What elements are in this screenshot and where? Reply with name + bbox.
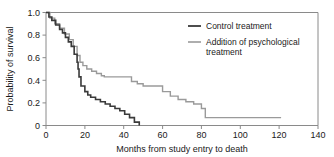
x-tick-label-100: 100 <box>233 130 248 140</box>
survival-chart-figure: 1.0 0.8 0.6 0.4 0.2 0 0 20 40 60 80 100 <box>0 0 334 157</box>
series-line-control-treatment <box>46 13 139 126</box>
y-tick-label-0.6: 0.6 <box>27 53 40 63</box>
x-tick-label-60: 60 <box>158 130 168 140</box>
kaplan-meier-plot: 1.0 0.8 0.6 0.4 0.2 0 0 20 40 60 80 100 <box>0 0 334 157</box>
y-tick-label-0: 0 <box>35 121 40 131</box>
x-axis-title: Months from study entry to death <box>116 144 248 154</box>
legend-label-addition-of-psychological-treatment: Addition of psychological <box>206 37 300 47</box>
x-tick-label-140: 140 <box>310 130 325 140</box>
x-tick-label-120: 120 <box>272 130 287 140</box>
chart-legend: Control treatment Addition of psychologi… <box>188 21 300 57</box>
y-tick-label-0.4: 0.4 <box>27 76 40 86</box>
x-tick-label-80: 80 <box>196 130 206 140</box>
x-tick-label-40: 40 <box>119 130 129 140</box>
y-tick-label-1.0: 1.0 <box>27 8 40 18</box>
x-tick-label-20: 20 <box>80 130 90 140</box>
x-axis-ticks <box>46 126 318 130</box>
y-axis-title: Probability of survival <box>5 26 15 111</box>
y-axis-tick-labels: 1.0 0.8 0.6 0.4 0.2 0 <box>27 8 40 131</box>
y-tick-label-0.8: 0.8 <box>27 30 40 40</box>
y-axis-ticks <box>43 13 47 126</box>
legend-label-control-treatment: Control treatment <box>206 21 272 31</box>
x-axis-tick-labels: 0 20 40 60 80 100 120 140 <box>43 130 325 140</box>
legend-label-addition-of-psychological-treatment-line2: treatment <box>206 47 243 57</box>
x-tick-label-0: 0 <box>43 130 48 140</box>
y-tick-label-0.2: 0.2 <box>27 98 40 108</box>
